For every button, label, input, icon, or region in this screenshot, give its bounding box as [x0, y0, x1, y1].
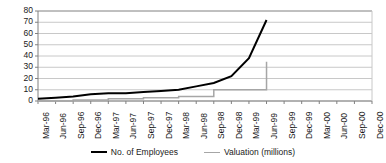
gridlines — [35, 11, 372, 101]
line-chart: 80706050403020100 Mar-96Jun-96Sep-96Dec-… — [0, 0, 386, 163]
series-lines — [38, 20, 267, 101]
chart-legend: No. of Employees Valuation (millions) — [0, 143, 386, 161]
legend-item-employees: No. of Employees — [91, 147, 178, 157]
legend-label-valuation: Valuation (millions) — [224, 147, 295, 157]
plot-area — [0, 0, 386, 163]
legend-label-employees: No. of Employees — [111, 147, 178, 157]
series-line-employees — [38, 20, 267, 99]
legend-item-valuation: Valuation (millions) — [204, 147, 295, 157]
legend-swatch-employees — [91, 151, 107, 153]
legend-swatch-valuation — [204, 152, 220, 153]
